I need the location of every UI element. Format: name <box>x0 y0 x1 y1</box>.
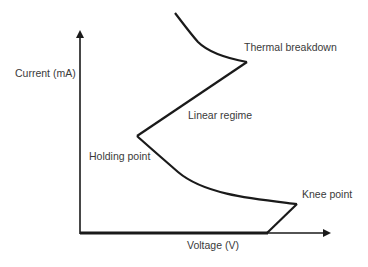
knee-rise-segment <box>267 204 297 233</box>
linear-regime-label: Linear regime <box>188 110 252 121</box>
thermal-breakdown-label: Thermal breakdown <box>244 42 337 53</box>
holding-point-label: Holding point <box>89 151 150 162</box>
linear-regime-segment <box>137 62 247 136</box>
snapback-segment <box>137 136 297 204</box>
knee-point-label: Knee point <box>302 189 352 200</box>
x-axis-label: Voltage (V) <box>187 240 239 251</box>
y-axis-label: Current (mA) <box>15 68 76 79</box>
thermal-breakdown-segment <box>175 13 247 62</box>
